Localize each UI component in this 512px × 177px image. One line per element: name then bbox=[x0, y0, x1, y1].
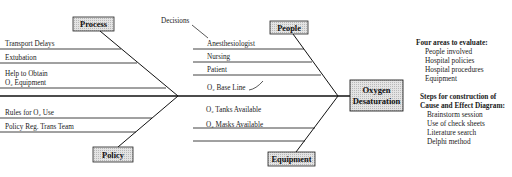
areas-to-evaluate-panel: Four areas to evaluate: People involved … bbox=[416, 38, 488, 83]
policy-branch-line bbox=[118, 96, 178, 147]
area-item: Equipment bbox=[416, 74, 488, 83]
policy-category-box: Policy bbox=[93, 147, 133, 162]
cause-patient: Patient bbox=[207, 66, 227, 74]
equipment-label: Equipment bbox=[271, 155, 311, 164]
decisions-leader-line bbox=[192, 25, 208, 38]
steps-heading-line1: Steps for construction of bbox=[420, 92, 505, 101]
process-branch-line bbox=[100, 31, 178, 96]
step-item: Brainstorm session bbox=[420, 110, 505, 119]
cause-nursing: Nursing bbox=[207, 53, 231, 61]
process-label: Process bbox=[80, 20, 108, 29]
people-label: People bbox=[277, 24, 301, 33]
cause-rules-for-o2-use: Rules for O₂ Use bbox=[5, 109, 54, 117]
cause-o2-masks-available: O₂ Masks Available bbox=[206, 121, 263, 129]
cause-o2-base-line: O₂ Base Line bbox=[207, 84, 245, 92]
steps-heading-line2: Cause and Effect Diagram: bbox=[420, 101, 505, 110]
areas-heading: Four areas to evaluate: bbox=[416, 38, 488, 47]
cause-policy-reg-trans-team: Policy Reg. Trans Team bbox=[5, 123, 74, 131]
cause-o2-equipment: O₂ Equipment bbox=[5, 79, 46, 87]
fishbone-diagram: Process Transport Delays Extubation Help… bbox=[0, 0, 512, 177]
decisions-annotation: Decisions bbox=[161, 17, 190, 25]
base-line-leader-curve bbox=[249, 81, 263, 90]
cause-transport-delays: Transport Delays bbox=[5, 40, 55, 48]
people-category-box: People bbox=[270, 21, 308, 34]
step-item: Literature search bbox=[420, 128, 505, 137]
equipment-branch-line bbox=[296, 96, 338, 152]
cause-extubation: Extubation bbox=[5, 54, 37, 62]
process-category-box: Process bbox=[73, 17, 114, 31]
area-item: Hospital policies bbox=[416, 56, 488, 65]
cause-o2-tanks-available: O₂ Tanks Available bbox=[206, 106, 261, 114]
effect-box: Oxygen Desaturation bbox=[350, 80, 403, 111]
area-item: People involved bbox=[416, 47, 488, 56]
equipment-category-box: Equipment bbox=[268, 152, 315, 166]
policy-label: Policy bbox=[102, 151, 125, 160]
step-item: Delphi method bbox=[420, 137, 505, 146]
area-item: Hospital procedures bbox=[416, 65, 488, 74]
cause-anesthesiologist: Anesthesiologist bbox=[207, 40, 255, 48]
effect-label-line1: Oxygen bbox=[362, 85, 390, 95]
step-item: Use of check sheets bbox=[420, 119, 505, 128]
construction-steps-panel: Steps for construction of Cause and Effe… bbox=[420, 92, 505, 146]
cause-help-to-obtain: Help to Obtain bbox=[5, 70, 48, 78]
effect-label-line2: Desaturation bbox=[353, 96, 401, 106]
people-branch-line bbox=[293, 34, 338, 96]
